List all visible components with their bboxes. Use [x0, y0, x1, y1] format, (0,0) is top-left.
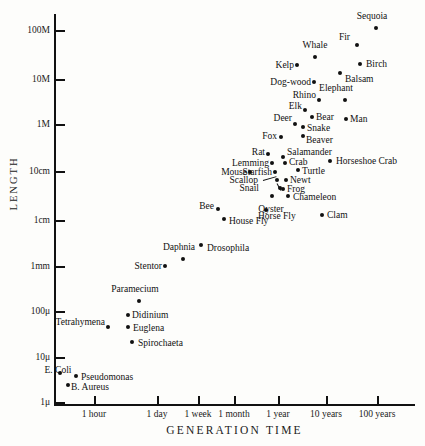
x-tick-mark — [94, 396, 96, 405]
data-point[interactable] — [301, 134, 305, 138]
data-point[interactable] — [126, 313, 130, 317]
data-point[interactable] — [216, 207, 220, 211]
y-tick-label: 10μ — [0, 352, 50, 362]
data-point[interactable] — [296, 168, 300, 172]
data-point-label: Birch — [366, 59, 387, 69]
data-point[interactable] — [338, 71, 342, 75]
x-tick-label: 10 years — [310, 409, 342, 420]
y-tick-label: 100M — [0, 25, 50, 35]
data-point[interactable] — [275, 178, 279, 182]
data-point[interactable] — [130, 340, 134, 344]
x-tick-label: 1 week — [184, 409, 211, 420]
data-point[interactable] — [199, 243, 203, 247]
data-point-label: Tetrahymena — [56, 317, 105, 327]
data-point[interactable] — [293, 122, 297, 126]
data-point[interactable] — [273, 170, 277, 174]
y-tick-label: 1cm — [0, 215, 50, 225]
data-point-label: Sequoia — [357, 11, 388, 21]
data-point[interactable] — [295, 63, 299, 67]
data-point[interactable] — [301, 125, 305, 129]
y-tick-mark — [56, 266, 65, 268]
data-point-label: Salamander — [287, 147, 332, 157]
x-tick-label: 1 month — [218, 409, 249, 420]
data-point-label: Fox — [262, 131, 277, 141]
data-point[interactable] — [317, 98, 321, 102]
data-point-label: Deer — [274, 113, 292, 123]
data-point[interactable] — [313, 55, 317, 59]
data-point[interactable] — [126, 325, 130, 329]
data-point[interactable] — [310, 115, 314, 119]
data-point-label: Spirochaeta — [138, 338, 183, 348]
data-point-label: Dog-wood — [270, 77, 311, 87]
y-tick-label: 1μ — [0, 397, 50, 407]
y-tick-mark — [56, 79, 65, 81]
data-point-label: Horseshoe Crab — [336, 156, 397, 166]
data-point[interactable] — [137, 299, 141, 303]
data-point[interactable] — [74, 374, 78, 378]
data-point[interactable] — [281, 155, 285, 159]
x-tick-label: 1 hour — [82, 409, 107, 420]
x-tick-label: 1 day — [147, 409, 168, 420]
y-tick-mark — [56, 402, 65, 404]
x-tick-label: 1 year — [266, 409, 289, 420]
data-point-label: Beaver — [306, 135, 333, 145]
data-point[interactable] — [374, 26, 378, 30]
data-point-label: Bee — [199, 201, 214, 211]
x-tick-mark — [157, 396, 159, 405]
data-point-label: B. Aureus — [71, 382, 109, 392]
y-tick-mark — [56, 220, 65, 222]
scatter-plot-figure: GENERATION TIME LENGTH 100M10M1M10cm1cm1… — [0, 0, 425, 446]
data-point[interactable] — [66, 383, 70, 387]
y-tick-mark — [56, 30, 65, 32]
data-point-label: Rhino — [293, 90, 316, 100]
data-point[interactable] — [163, 264, 167, 268]
y-tick-label: 10cm — [0, 166, 50, 176]
x-tick-label: 100 years — [359, 409, 396, 420]
data-point[interactable] — [279, 135, 283, 139]
data-point[interactable] — [355, 43, 359, 47]
x-tick-mark — [198, 396, 200, 405]
data-point[interactable] — [266, 152, 270, 156]
data-point[interactable] — [328, 159, 332, 163]
data-point-label: Euglena — [133, 323, 164, 333]
y-tick-mark — [56, 311, 65, 313]
x-tick-mark — [326, 396, 328, 405]
data-point-label: Pseudomonas — [81, 372, 133, 382]
data-point-label: Clam — [327, 210, 348, 220]
y-axis-line — [54, 14, 56, 406]
data-point-label: Rat — [252, 147, 265, 157]
data-point-label: Chameleon — [293, 192, 336, 202]
x-tick-mark — [377, 396, 379, 405]
data-point-label: E. Coli — [45, 365, 72, 375]
data-point-label: House Fly — [229, 216, 268, 226]
data-point[interactable] — [343, 98, 347, 102]
data-point[interactable] — [106, 325, 110, 329]
data-point[interactable] — [283, 161, 287, 165]
data-point[interactable] — [222, 217, 226, 221]
data-point[interactable] — [284, 178, 288, 182]
data-point[interactable] — [303, 108, 307, 112]
data-point-label: Man — [350, 114, 367, 124]
y-tick-label: 1M — [0, 119, 50, 129]
data-point-label: Whale — [303, 40, 328, 50]
data-point[interactable] — [181, 257, 185, 261]
x-tick-mark — [278, 396, 280, 405]
data-point[interactable] — [270, 194, 274, 198]
data-point-label: Stentor — [135, 261, 162, 271]
data-point-label: Elk — [289, 101, 302, 111]
y-tick-mark — [56, 124, 65, 126]
data-point-label: Elephant — [319, 83, 353, 93]
data-point[interactable] — [312, 80, 316, 84]
data-point[interactable] — [320, 213, 324, 217]
x-axis-title: GENERATION TIME — [54, 424, 415, 436]
y-tick-label: 1mm — [0, 261, 50, 271]
x-tick-mark — [234, 396, 236, 405]
data-point-label: Drosophila — [207, 243, 249, 253]
y-tick-label: 100μ — [0, 306, 50, 316]
data-point[interactable] — [358, 62, 362, 66]
data-point[interactable] — [286, 194, 290, 198]
data-point[interactable] — [281, 187, 285, 191]
data-point-label: Snail — [239, 183, 259, 193]
data-point[interactable] — [344, 117, 348, 121]
data-point[interactable] — [270, 161, 274, 165]
